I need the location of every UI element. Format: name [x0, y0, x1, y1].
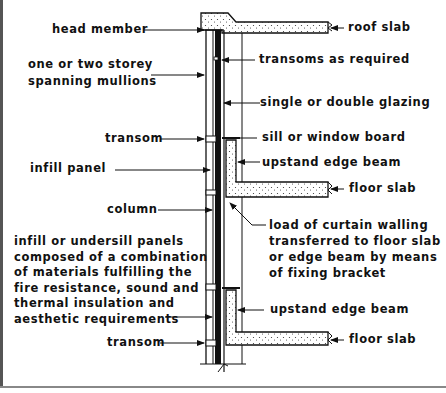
label-floor-slab-lower: floor slab	[349, 332, 416, 347]
label-transom-lower: transom	[107, 335, 165, 350]
label-sill: sill or window board	[262, 130, 406, 145]
label-infill-panel: infill panel	[30, 161, 106, 176]
label-infill-description: infill or undersill panels composed of a…	[14, 234, 208, 327]
label-head-member: head member	[52, 22, 148, 37]
label-load-description: load of curtain walling transferred to f…	[269, 217, 441, 281]
label-roof-slab: roof slab	[348, 20, 411, 35]
label-transom-upper: transom	[105, 131, 163, 146]
label-mullions: one or two storey spanning mullions	[28, 56, 157, 90]
label-glazing: single or double glazing	[260, 95, 430, 110]
label-floor-slab-upper: floor slab	[349, 181, 416, 196]
label-upstand-edge-beam-lower: upstand edge beam	[270, 302, 409, 317]
diagram-frame: head member one or two storey spanning m…	[0, 0, 446, 393]
label-transoms-as-required: transoms as required	[259, 52, 410, 67]
label-column: column	[107, 202, 158, 217]
label-upstand-edge-beam-upper: upstand edge beam	[262, 155, 401, 170]
